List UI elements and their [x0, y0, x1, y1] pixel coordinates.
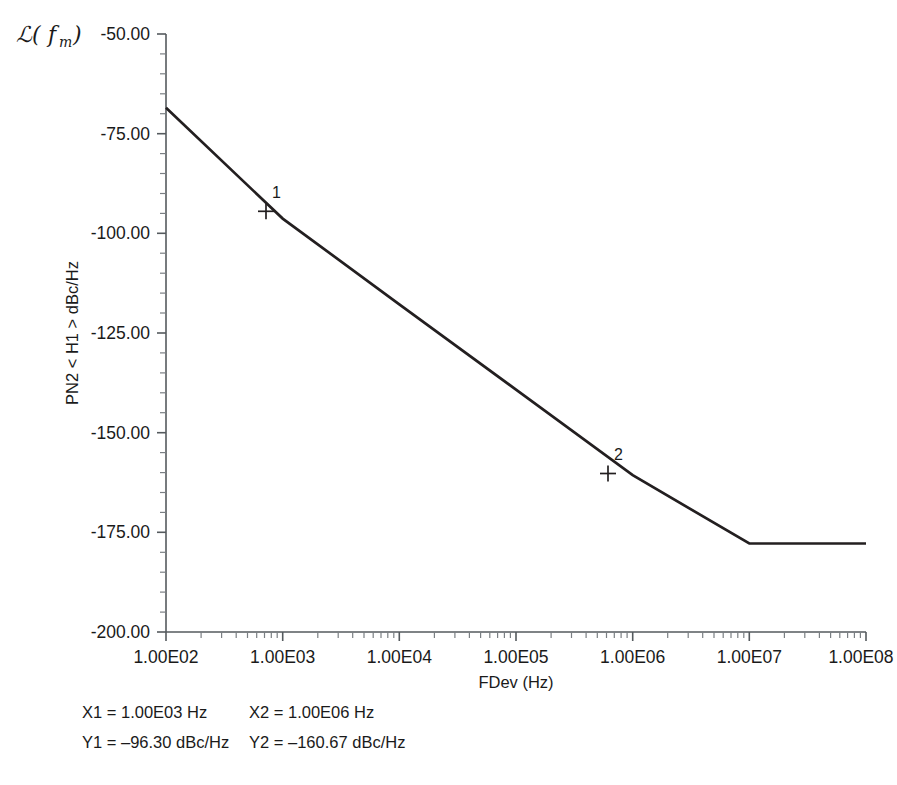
- marker-readout: X1 = 1.00E03 Hz X2 = 1.00E06 Hz Y1 = –96…: [82, 703, 405, 751]
- y-axis-tick-labels: -50.00 -75.00 -100.00 -125.00 -150.00 -1…: [91, 24, 151, 642]
- y-tick-label: -175.00: [91, 522, 151, 542]
- title-f-symbol: f: [46, 22, 60, 47]
- y-tick-label: -150.00: [91, 423, 151, 443]
- x-tick-label: 1.00E05: [483, 647, 548, 667]
- chart-page: ℒ( f m ): [0, 0, 897, 785]
- y-axis-label: PN2 < H1 > dBc/Hz: [63, 261, 81, 405]
- y-tick-label: -125.00: [91, 323, 151, 343]
- x-tick-label: 1.00E07: [717, 647, 782, 667]
- readout-x2: X2 = 1.00E06 Hz: [249, 703, 374, 721]
- title-close-paren: ): [72, 22, 82, 47]
- y-tick-label: -50.00: [100, 24, 150, 44]
- x-axis-tick-labels: 1.00E02 1.00E03 1.00E04 1.00E05 1.00E06 …: [133, 647, 893, 667]
- readout-y1: Y1 = –96.30 dBc/Hz: [82, 733, 229, 751]
- y-tick-label: -200.00: [91, 622, 151, 642]
- x-axis-label: FDev (Hz): [478, 673, 553, 691]
- phase-noise-curve: [166, 108, 866, 544]
- readout-y2: Y2 = –160.67 dBc/Hz: [249, 733, 405, 751]
- x-tick-label: 1.00E03: [250, 647, 315, 667]
- y-tick-label: -75.00: [100, 124, 150, 144]
- x-tick-label: 1.00E04: [367, 647, 432, 667]
- chart-title: ℒ( f m ): [16, 22, 82, 50]
- readout-x1: X1 = 1.00E03 Hz: [82, 703, 207, 721]
- marker-1-label: 1: [272, 184, 281, 201]
- x-tick-label: 1.00E06: [600, 647, 665, 667]
- title-subscript-m: m: [59, 34, 72, 50]
- y-tick-label: -100.00: [91, 223, 151, 243]
- x-axis-ticks: [166, 632, 866, 641]
- title-script-l: ℒ(: [16, 22, 41, 47]
- y-axis-ticks: [157, 34, 166, 632]
- x-tick-label: 1.00E08: [828, 647, 893, 667]
- marker-2[interactable]: 2: [600, 446, 623, 482]
- marker-2-label: 2: [614, 446, 623, 463]
- phase-noise-chart: ℒ( f m ): [0, 0, 897, 785]
- x-tick-label: 1.00E02: [133, 647, 198, 667]
